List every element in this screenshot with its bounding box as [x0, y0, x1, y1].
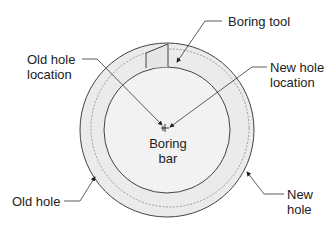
leader-new-hole [247, 172, 284, 194]
label-new-hole-location: New hole location [270, 60, 324, 90]
label-line: New [287, 187, 313, 202]
boring-bar-circle [104, 67, 230, 193]
label-line: hole [287, 202, 313, 217]
label-line: bar [146, 151, 190, 166]
label-boring-tool: Boring tool [228, 14, 290, 29]
label-old-hole-location: Old hole location [27, 52, 75, 82]
label-line: Boring [146, 136, 190, 151]
label-new-hole: New hole [287, 187, 313, 217]
label-boring-bar: Boring bar [146, 136, 190, 166]
leader-old-hole [64, 177, 95, 201]
label-line: Old hole [27, 52, 75, 67]
label-old-hole: Old hole [12, 194, 60, 209]
label-line: location [270, 75, 324, 90]
label-line: location [27, 67, 75, 82]
label-line: New hole [270, 60, 324, 75]
